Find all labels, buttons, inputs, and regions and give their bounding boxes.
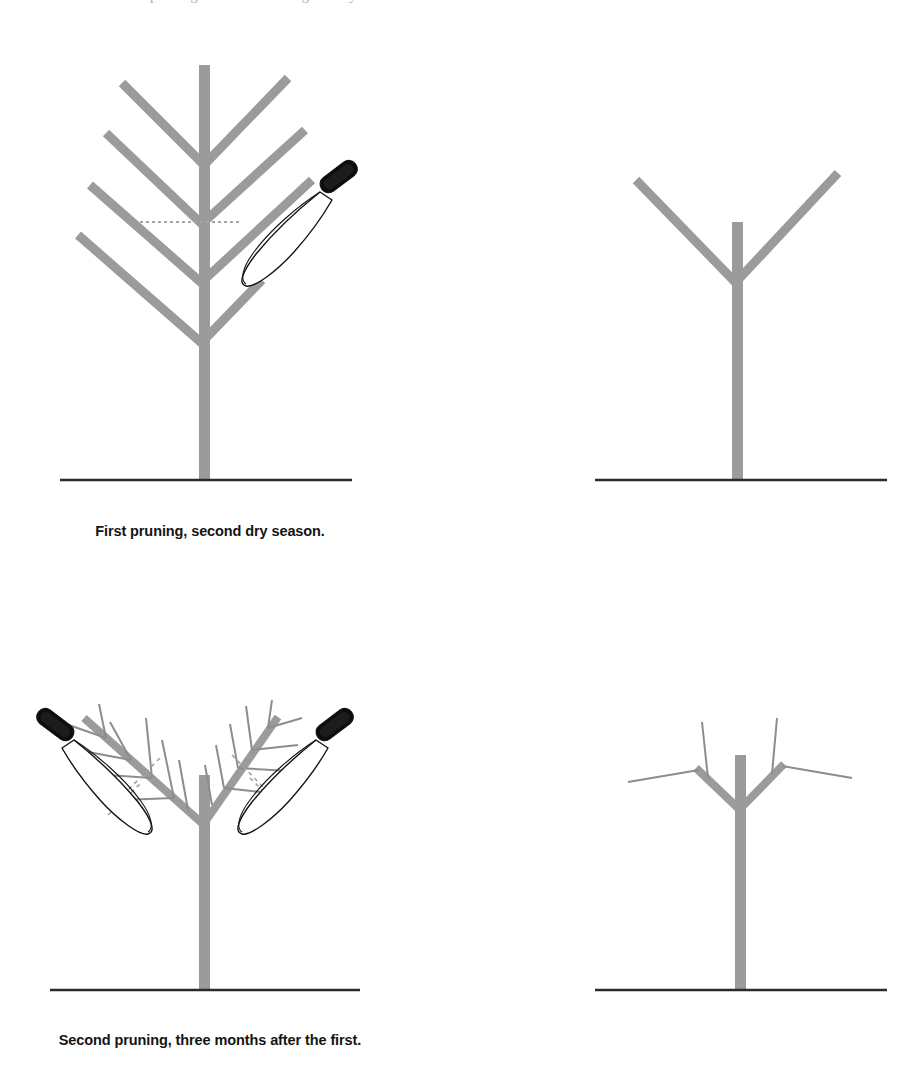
branch-right-stub (741, 764, 784, 808)
tree-branches (636, 173, 838, 480)
page-header-strip: pruning of the tree during the dry seaso… (0, 0, 923, 14)
branch-left-4 (122, 83, 204, 165)
tree-trunk (199, 775, 210, 990)
twig-l-side (628, 770, 699, 782)
panel-after-first-pruning: After the first pruning. (500, 40, 920, 540)
branch-right-1 (204, 280, 262, 340)
twig-r-side (782, 766, 852, 778)
branch-left-1 (636, 180, 738, 285)
machete-handle (317, 157, 361, 196)
tree-trunk (735, 755, 746, 990)
branch-left-2 (90, 185, 204, 285)
machete-handle (313, 705, 357, 744)
machete-blade (62, 740, 152, 834)
panel-second-pruning: Second pruning, three months after the f… (0, 600, 420, 1070)
branch-right-1 (738, 173, 838, 280)
diagram-page: pruning of the tree during the dry seaso… (0, 0, 923, 1082)
panel-first-pruning: First pruning, second dry season. (0, 40, 420, 540)
tree-illustration-after-second-pruning (500, 600, 920, 1070)
twig-r-up (772, 718, 777, 774)
branch-left-1 (78, 235, 204, 345)
tree-illustration-before-second-pruning (0, 600, 420, 1070)
header-partial-text: pruning of the tree during the dry seaso… (150, 0, 402, 4)
tree-main-branches (696, 755, 784, 990)
tree-illustration-after-first-pruning (500, 40, 920, 540)
twig-r7 (216, 745, 224, 788)
twig-r3 (246, 706, 252, 750)
tree-branches (78, 65, 312, 480)
branch-left-stub (696, 768, 740, 810)
tree-main-branches (84, 717, 278, 990)
panel-1-caption: First pruning, second dry season. (0, 523, 420, 539)
tree-illustration-before-first-pruning (0, 40, 420, 540)
panel-3-caption: Second pruning, three months after the f… (0, 1032, 420, 1048)
twig-r5 (230, 724, 238, 768)
tree-trunk (732, 222, 743, 480)
panel-after-second-pruning: After the second pruning. (500, 600, 920, 1070)
